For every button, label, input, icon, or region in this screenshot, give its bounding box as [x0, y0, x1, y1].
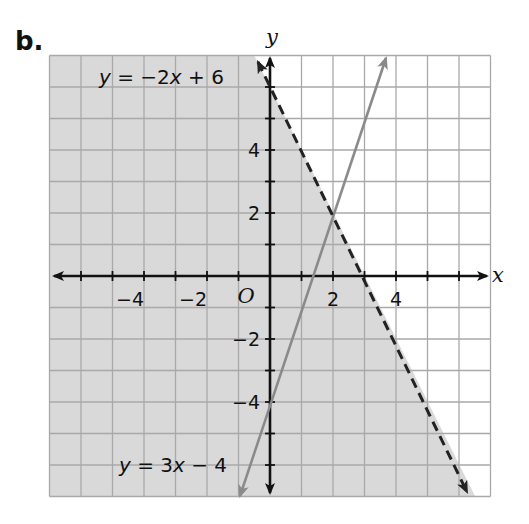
- coordinate-plane: −4 −2 2 4 O 4 2 −2 −4 x y y = −2x + 6 y …: [0, 0, 529, 524]
- equation-label-solid: y = 3x − 4: [118, 453, 227, 477]
- x-tick-label: −2: [179, 288, 207, 310]
- x-tick-label: 2: [327, 288, 339, 310]
- y-tick-label: 2: [248, 202, 260, 224]
- x-axis-label: x: [492, 263, 504, 287]
- y-tick-label: −2: [232, 328, 260, 350]
- y-tick-label: −4: [232, 391, 260, 413]
- equation-label-dashed: y = −2x + 6: [98, 65, 224, 89]
- y-axis-label: y: [265, 25, 279, 49]
- origin-label: O: [237, 284, 254, 308]
- x-tick-label: −4: [116, 288, 144, 310]
- y-tick-label: 4: [248, 139, 260, 161]
- x-tick-label: 4: [390, 288, 402, 310]
